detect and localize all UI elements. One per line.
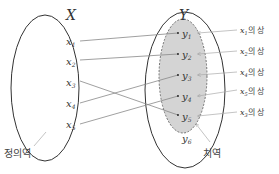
svg-text:x1: x1 xyxy=(66,36,75,48)
svg-text:y6: y6 xyxy=(181,133,192,145)
svg-text:x3: x3 xyxy=(66,77,76,89)
svg-text:x2의 상: x2의 상 xyxy=(240,46,265,57)
svg-text:x4의 상: x4의 상 xyxy=(240,67,265,78)
function-diagram: X Y x1 x2 x3 x4 x5 y1 y2 y3 y4 y5 y6 x1의… xyxy=(0,0,279,174)
svg-text:x5의 상: x5의 상 xyxy=(240,86,265,97)
domain-callout-line xyxy=(34,132,46,146)
svg-text:x2: x2 xyxy=(66,56,76,68)
svg-text:x1의 상: x1의 상 xyxy=(240,25,265,36)
range-label: 치역 xyxy=(203,148,221,159)
image-labels: x1의 상 x2의 상 x4의 상 x5의 상 x3의 상 xyxy=(240,25,265,118)
domain-label: 정의역 xyxy=(4,148,31,159)
svg-text:x5: x5 xyxy=(66,119,76,131)
svg-text:x3의 상: x3의 상 xyxy=(240,107,265,118)
range-callout-line xyxy=(196,124,210,142)
svg-text:x4: x4 xyxy=(66,98,76,110)
domain-set-name: X xyxy=(65,7,77,23)
mapping-x1-y1 xyxy=(80,33,178,41)
